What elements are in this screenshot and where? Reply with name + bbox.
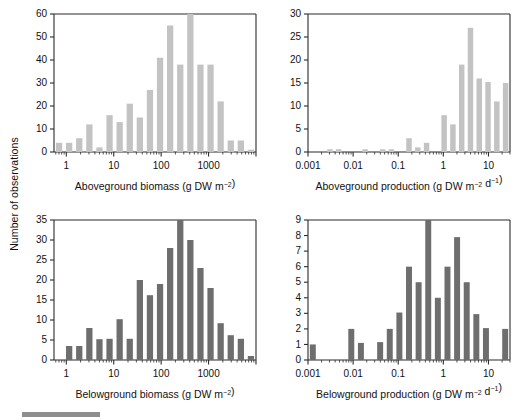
histogram-bar [454, 237, 460, 360]
svg-text:Belowground production (g DW m: Belowground production (g DW m−2 d−1) [316, 381, 502, 400]
svg-text:10: 10 [483, 368, 495, 379]
histogram-bar [502, 329, 508, 360]
histogram-bar [450, 124, 455, 152]
svg-text:40: 40 [36, 54, 48, 65]
panel-belowground-production: 01234567890.0010.010.1110Belowground pro… [272, 208, 516, 418]
histogram-bar [197, 268, 203, 360]
svg-text:1000: 1000 [197, 368, 220, 379]
svg-text:20: 20 [290, 54, 302, 65]
chart-belowground-production: 01234567890.0010.010.1110Belowground pro… [272, 208, 516, 418]
histogram-bar [218, 101, 224, 152]
histogram-bar [106, 339, 112, 360]
svg-text:0.01: 0.01 [343, 368, 363, 379]
svg-text:60: 60 [36, 8, 48, 19]
svg-text:35: 35 [36, 214, 48, 225]
histogram-bar [207, 65, 213, 152]
svg-text:1: 1 [64, 368, 70, 379]
histogram-bar [187, 240, 193, 360]
svg-text:0: 0 [295, 354, 301, 365]
histogram-bar [76, 138, 82, 152]
histogram-bar [348, 329, 354, 360]
svg-text:Aboveground production (g DW m: Aboveground production (g DW m−2 d−1) [316, 173, 503, 192]
figure-scale-bar [22, 412, 100, 417]
svg-text:9: 9 [295, 214, 301, 225]
histogram-bar [228, 335, 234, 360]
histogram-bar [127, 104, 133, 152]
svg-text:Aboveground biomass (g DW m−2): Aboveground biomass (g DW m−2) [75, 177, 235, 193]
svg-text:0.1: 0.1 [391, 368, 405, 379]
histogram-bar [96, 339, 102, 360]
histogram-bar [238, 339, 244, 360]
chart-aboveground-production: 0510152025300.0010.010.1110Aboveground p… [272, 2, 516, 210]
histogram-bar [435, 298, 441, 360]
histogram-bar [468, 28, 473, 152]
svg-text:50: 50 [36, 31, 48, 42]
svg-text:25: 25 [290, 31, 302, 42]
histogram-bar [96, 147, 102, 152]
histogram-bar [473, 314, 479, 360]
svg-text:0.1: 0.1 [391, 160, 405, 171]
histogram-bar [86, 328, 92, 360]
histogram-bar [137, 280, 143, 360]
panel-belowground-biomass: 051015202530351101001000Belowground biom… [18, 208, 262, 418]
svg-text:15: 15 [36, 294, 48, 305]
svg-text:5: 5 [295, 276, 301, 287]
histogram-bar [218, 323, 224, 360]
histogram-bar [197, 65, 203, 152]
svg-text:5: 5 [41, 334, 47, 345]
histogram-bar [336, 149, 341, 152]
svg-text:0: 0 [295, 146, 301, 157]
chart-belowground-biomass: 051015202530351101001000Belowground biom… [18, 208, 262, 418]
svg-text:1: 1 [441, 160, 447, 171]
svg-text:7: 7 [295, 245, 301, 256]
svg-text:10: 10 [108, 160, 120, 171]
histogram-bar [358, 343, 364, 360]
histogram-bar [238, 141, 244, 153]
histogram-bar [167, 26, 173, 153]
histogram-bar [137, 118, 143, 153]
svg-text:2: 2 [295, 323, 301, 334]
histogram-bar [187, 14, 193, 152]
svg-text:10: 10 [36, 314, 48, 325]
histogram-bar [228, 141, 234, 153]
svg-text:6: 6 [295, 261, 301, 272]
histogram-bar [406, 267, 412, 360]
svg-text:1: 1 [441, 368, 447, 379]
svg-text:100: 100 [153, 160, 170, 171]
histogram-bar [425, 220, 431, 360]
svg-text:30: 30 [36, 77, 48, 88]
svg-text:30: 30 [290, 8, 302, 19]
histogram-bar [117, 319, 123, 360]
svg-text:10: 10 [290, 100, 302, 111]
svg-text:20: 20 [36, 100, 48, 111]
histogram-bar [56, 143, 62, 152]
histogram-bar [380, 149, 385, 152]
histogram-bar [389, 149, 394, 152]
svg-text:10: 10 [108, 368, 120, 379]
svg-text:0.001: 0.001 [295, 368, 320, 379]
histogram-bar [167, 248, 173, 360]
histogram-bar [377, 342, 383, 360]
figure-container: Number of observations 01020304050601101… [0, 0, 520, 420]
svg-text:1000: 1000 [197, 160, 220, 171]
chart-aboveground-biomass: 01020304050601101001000Aboveground bioma… [18, 2, 262, 210]
histogram-bar [424, 143, 429, 152]
svg-text:25: 25 [36, 254, 48, 265]
histogram-bar [86, 124, 92, 152]
histogram-bar [477, 78, 482, 152]
histogram-bar [157, 284, 163, 360]
histogram-bar [147, 295, 153, 360]
svg-text:Belowground biomass (g DW m−2): Belowground biomass (g DW m−2) [75, 385, 234, 401]
histogram-bar [416, 282, 422, 360]
histogram-bar [503, 83, 508, 152]
histogram-bar [106, 115, 112, 152]
histogram-bar [310, 344, 316, 360]
svg-text:1: 1 [64, 160, 70, 171]
histogram-bar [147, 90, 153, 152]
svg-text:10: 10 [36, 123, 48, 134]
svg-text:0.01: 0.01 [343, 160, 363, 171]
histogram-bar [127, 339, 133, 360]
svg-text:5: 5 [295, 123, 301, 134]
svg-text:0: 0 [41, 354, 47, 365]
svg-text:15: 15 [290, 77, 302, 88]
